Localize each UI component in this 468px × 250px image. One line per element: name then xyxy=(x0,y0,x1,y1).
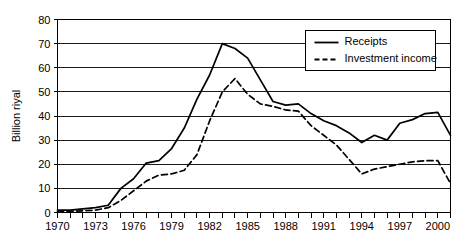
x-axis-tick-label: 1985 xyxy=(235,220,259,232)
line-chart: 01020304050607080 1970197319761979198219… xyxy=(0,0,468,250)
x-axis-tick-label: 1970 xyxy=(45,220,69,232)
x-axis-tick-label: 1976 xyxy=(121,220,145,232)
legend-label-investment-income: Investment income xyxy=(345,52,437,64)
y-axis-tick-label: 40 xyxy=(38,110,50,122)
y-axis-tick-label: 50 xyxy=(38,86,50,98)
x-axis-tick-label: 1988 xyxy=(273,220,297,232)
chart-canvas: 01020304050607080 1970197319761979198219… xyxy=(0,0,468,250)
x-axis-tick-label: 2000 xyxy=(426,220,450,232)
y-axis-tick-label: 10 xyxy=(38,182,50,194)
x-axis-tick-label: 1982 xyxy=(197,220,221,232)
y-axis-tick-label: 70 xyxy=(38,38,50,50)
y-axis-tick-label: 60 xyxy=(38,62,50,74)
x-axis-tick-label: 1973 xyxy=(83,220,107,232)
x-axis-tickmarks xyxy=(58,213,451,218)
x-axis-tick-label: 1979 xyxy=(159,220,183,232)
y-axis-tick-label: 80 xyxy=(38,14,50,26)
chart-legend: ReceiptsInvestment income xyxy=(306,31,437,71)
x-axis-tick-labels: 1970197319761979198219851988199119941997… xyxy=(45,220,450,232)
y-axis-tick-label: 0 xyxy=(44,207,50,219)
legend-label-receipts: Receipts xyxy=(345,35,388,47)
y-axis-tick-label: 30 xyxy=(38,134,50,146)
y-axis-tick-labels: 01020304050607080 xyxy=(38,14,50,219)
x-axis-tick-label: 1997 xyxy=(388,220,412,232)
x-axis-tick-label: 1994 xyxy=(350,220,374,232)
series-line-investment-income xyxy=(58,79,451,212)
y-axis-title: Billion riyal xyxy=(10,90,22,143)
y-axis-tick-label: 20 xyxy=(38,158,50,170)
x-axis-tick-label: 1991 xyxy=(311,220,335,232)
